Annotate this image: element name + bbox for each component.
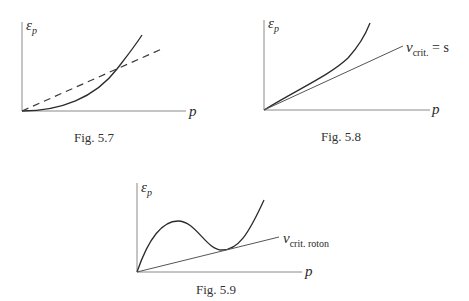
fig-5-9-plot (137, 183, 302, 272)
dashed-line (22, 48, 164, 111)
fig-5-9-line-label: vcrit. roton (283, 231, 329, 249)
fig-5-7-y-label: εp (26, 18, 37, 36)
fig-5-8-y-label: εp (268, 16, 279, 34)
fig-5-8-caption: Fig. 5.8 (321, 130, 361, 143)
fig-5-9-y-label: εp (141, 180, 152, 198)
figures-canvas (0, 0, 469, 301)
fig-5-7-caption: Fig. 5.7 (74, 131, 114, 144)
fig-5-8-plot (264, 20, 430, 110)
fig-5-9-caption: Fig. 5.9 (196, 283, 236, 296)
fig-5-7-x-label: p (189, 104, 197, 119)
fig-5-8-line-label: vcrit. = s (406, 40, 449, 58)
dispersion-curve (22, 35, 142, 111)
dispersion-curve (264, 23, 370, 110)
fig-5-7-plot (22, 22, 186, 111)
roton-dispersion-curve (137, 200, 264, 272)
fig-5-8-x-label: p (432, 102, 440, 117)
fig-5-9-x-label: p (305, 264, 313, 279)
critical-velocity-line (264, 46, 403, 110)
